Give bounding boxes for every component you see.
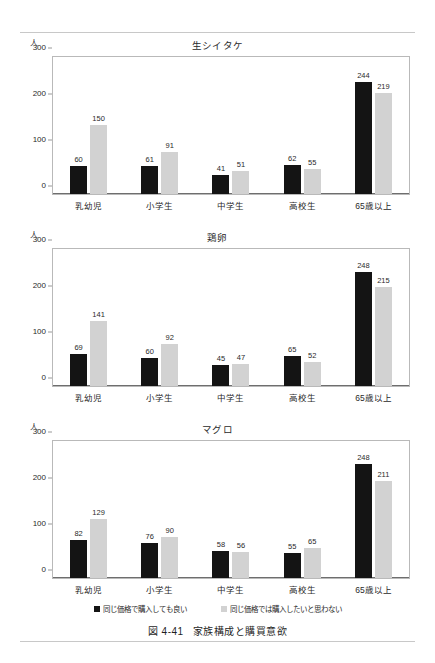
bar-group: 6092小学生 [124,249,195,386]
bar-group: 6255高校生 [267,57,338,194]
y-tick-label: 0 [42,181,46,190]
bar-value-label: 60 [146,347,154,356]
bar: 47 [232,364,249,386]
bar-value-label: 141 [92,310,105,319]
x-category-label: 65歳以上 [338,583,409,595]
bar-group: 24821165歳以上 [338,441,409,578]
bar: 61 [141,166,158,194]
bar-value-label: 248 [357,261,370,270]
x-category-label: 乳幼児 [53,391,124,403]
x-category-label: 小学生 [124,199,195,211]
x-category-label: 高校生 [267,391,338,403]
bar-value-label: 69 [74,343,82,352]
legend-label: 同じ価格では購入したいと思わない [230,603,342,614]
y-tick-label: 200 [33,281,46,290]
plot-area: 010020030060150乳幼児6191小学生4151中学生6255高校生2… [52,56,410,195]
legend-item: 同じ価格では購入したいと思わない [221,603,342,614]
y-tick-label: 0 [42,565,46,574]
x-category-label: 高校生 [267,199,338,211]
bar: 248 [355,464,372,578]
y-tick-label: 200 [33,89,46,98]
bar: 55 [284,553,301,578]
bar-group: 5856中学生 [195,441,266,578]
dark-square-icon [94,606,100,612]
chart-shiitake: 人 生シイタケ 010020030060150乳幼児6191小学生4151中学生… [0,38,435,228]
y-tick-label: 100 [33,519,46,528]
bar: 211 [375,481,392,578]
figure-caption: 図 4-41家族構成と購買意欲 [0,623,435,638]
x-category-label: 65歳以上 [338,391,409,403]
plot-area: 010020030082129乳幼児7690小学生5856中学生5565高校生2… [52,440,410,579]
bar-group: 69141乳幼児 [53,249,124,386]
bar-group: 7690小学生 [124,441,195,578]
bar-value-label: 244 [357,71,370,80]
bar-group: 6552高校生 [267,249,338,386]
y-tick-label: 100 [33,327,46,336]
bar: 55 [304,169,321,194]
bar: 90 [161,537,178,578]
bar-value-label: 76 [146,532,154,541]
bar: 41 [212,175,229,194]
bar: 58 [212,551,229,578]
bar: 92 [161,344,178,386]
bar-value-label: 47 [237,353,245,362]
bar: 244 [355,82,372,194]
bar-group: 60150乳幼児 [53,57,124,194]
y-tick-label: 300 [33,235,46,244]
bar-value-label: 58 [217,540,225,549]
bar-value-label: 65 [288,345,296,354]
bar: 91 [161,152,178,194]
y-tick-label: 100 [33,135,46,144]
bar: 52 [304,362,321,386]
bar-group: 4151中学生 [195,57,266,194]
bar-value-label: 45 [217,354,225,363]
bar: 60 [70,166,87,194]
bar-value-label: 90 [166,526,174,535]
bar-value-label: 219 [377,82,390,91]
bar: 45 [212,365,229,386]
caption-title: 家族構成と購買意欲 [193,626,288,637]
legend-label: 同じ価格で購入しても良い [103,603,187,614]
bar-group: 24821565歳以上 [338,249,409,386]
x-category-label: 乳幼児 [53,583,124,595]
chart-maguro: 人 マグロ 010020030082129乳幼児7690小学生5856中学生55… [0,422,435,612]
x-category-label: 乳幼児 [53,199,124,211]
bar-value-label: 92 [166,333,174,342]
x-category-label: 小学生 [124,391,195,403]
y-tick-label: 200 [33,473,46,482]
bar: 150 [90,125,107,194]
bar: 248 [355,272,372,386]
bar-value-label: 150 [92,114,105,123]
bottom-divider [20,641,415,642]
top-divider [20,32,415,33]
bar-value-label: 91 [166,141,174,150]
bar-group: 24421965歳以上 [338,57,409,194]
chart-title: 鶏卵 [0,230,435,244]
bar: 65 [284,356,301,386]
bar-value-label: 211 [377,470,389,479]
legend: 同じ価格で購入しても良い同じ価格では購入したいと思わない [0,603,435,614]
bar: 60 [141,358,158,386]
bar-value-label: 56 [237,541,245,550]
caption-number: 図 4-41 [148,626,184,637]
bar: 62 [284,165,301,194]
bar-value-label: 215 [377,276,390,285]
light-square-icon [221,606,227,612]
bar: 129 [90,519,107,578]
bar: 82 [70,540,87,578]
bar: 215 [375,287,392,386]
bar-value-label: 41 [217,164,225,173]
bar-value-label: 129 [92,508,105,517]
chart-title: マグロ [0,422,435,436]
bar: 65 [304,548,321,578]
bar-value-label: 60 [74,155,82,164]
chart-title: 生シイタケ [0,38,435,52]
legend-item: 同じ価格で購入しても良い [94,603,187,614]
bar-value-label: 62 [288,154,296,163]
x-category-label: 中学生 [195,391,266,403]
y-tick-label: 300 [33,427,46,436]
x-category-label: 高校生 [267,583,338,595]
bar-group: 82129乳幼児 [53,441,124,578]
x-category-label: 中学生 [195,583,266,595]
bar-group: 6191小学生 [124,57,195,194]
